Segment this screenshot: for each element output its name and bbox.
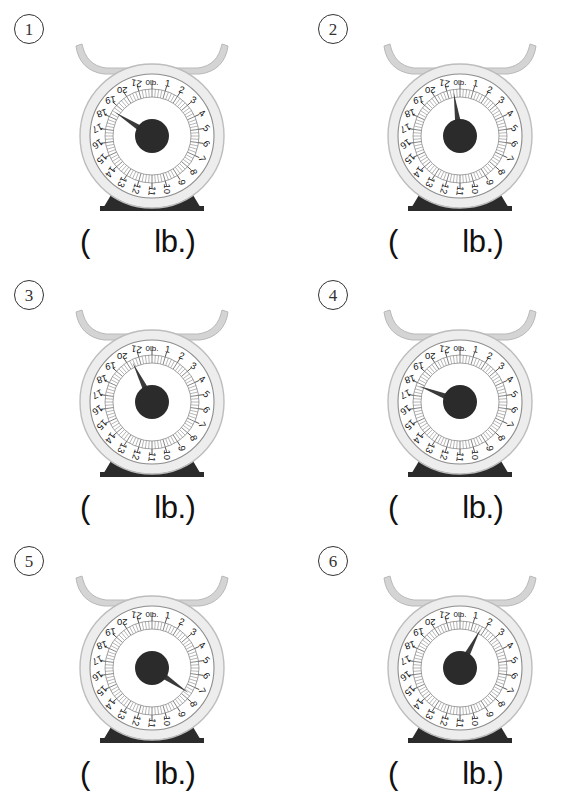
problem-number-4: 4 [318, 280, 348, 310]
dial-zero-label: 0lb. [454, 78, 467, 87]
dial-number-label: 19 [104, 360, 116, 373]
weighing-scale: 0lb.123456789101112131415161718192021 [370, 294, 550, 484]
scale-drawing: 0lb.123456789101112131415161718192021 [62, 294, 242, 484]
answer-line[interactable]: (lb.) [370, 222, 550, 262]
weighing-scale: 0lb.123456789101112131415161718192021 [370, 28, 550, 218]
problem-item: 60lb.123456789101112131415161718192021(l… [292, 532, 584, 798]
problem-number-3: 3 [14, 280, 44, 310]
answer-line[interactable]: (lb.) [370, 754, 550, 794]
dial-zero-label: 0lb. [146, 610, 159, 619]
answer-unit-label: lb.) [154, 756, 195, 792]
dial-number-label: 20 [117, 351, 128, 362]
dial-number-label: 11 [146, 717, 158, 728]
answer-unit-label: lb.) [462, 490, 503, 526]
dial-needle-hub [135, 651, 169, 685]
dial-number-label: 19 [412, 360, 424, 373]
dial-number-label: 19 [412, 94, 424, 107]
problem-item: 50lb.123456789101112131415161718192021(l… [0, 532, 292, 798]
dial-needle-hub [443, 651, 477, 685]
weighing-scale: 0lb.123456789101112131415161718192021 [62, 294, 242, 484]
dial-number-label: 21 [130, 77, 142, 90]
dial-needle-hub [443, 385, 477, 419]
answer-unit-label: lb.) [462, 224, 503, 260]
answer-line[interactable]: (lb.) [62, 754, 242, 794]
dial-number-label: 11 [146, 451, 158, 462]
answer-unit-label: lb.) [154, 224, 195, 260]
answer-open-paren: ( [80, 490, 90, 526]
scale-drawing: 0lb.123456789101112131415161718192021 [370, 560, 550, 750]
dial-number-label: 10 [162, 715, 173, 726]
dial-number-label: 10 [162, 183, 173, 194]
weighing-scale: 0lb.123456789101112131415161718192021 [62, 560, 242, 750]
answer-open-paren: ( [80, 224, 90, 260]
dial-number-label: 20 [425, 617, 436, 628]
problem-number-6: 6 [318, 546, 348, 576]
dial-number-label: 20 [425, 351, 436, 362]
dial-number-label: 11 [454, 451, 466, 462]
dial-needle-hub [443, 119, 477, 153]
problem-item: 30lb.123456789101112131415161718192021(l… [0, 266, 292, 532]
dial-zero-label: 0lb. [146, 78, 159, 87]
dial-number-label: 10 [470, 715, 481, 726]
scale-drawing: 0lb.123456789101112131415161718192021 [370, 294, 550, 484]
dial-number-label: 20 [117, 85, 128, 96]
problem-number-1: 1 [14, 14, 44, 44]
answer-line[interactable]: (lb.) [62, 488, 242, 528]
dial-number-label: 11 [454, 717, 466, 728]
dial-number-label: 10 [470, 449, 481, 460]
answer-unit-label: lb.) [154, 490, 195, 526]
dial-zero-label: 0lb. [146, 344, 159, 353]
dial-number-label: 11 [454, 185, 466, 196]
dial-number-label: 21 [438, 343, 450, 356]
answer-unit-label: lb.) [462, 756, 503, 792]
answer-open-paren: ( [80, 756, 90, 792]
scale-drawing: 0lb.123456789101112131415161718192021 [370, 28, 550, 218]
weighing-scale: 0lb.123456789101112131415161718192021 [62, 28, 242, 218]
dial-number-label: 21 [438, 77, 450, 90]
dial-zero-label: 0lb. [454, 344, 467, 353]
dial-zero-label: 0lb. [454, 610, 467, 619]
answer-line[interactable]: (lb.) [370, 488, 550, 528]
dial-number-label: 21 [130, 609, 142, 622]
answer-open-paren: ( [388, 756, 398, 792]
dial-number-label: 20 [425, 85, 436, 96]
dial-number-label: 10 [470, 183, 481, 194]
dial-number-label: 21 [130, 343, 142, 356]
dial-number-label: 20 [117, 617, 128, 628]
problem-item: 20lb.123456789101112131415161718192021(l… [292, 0, 584, 266]
worksheet-sheet: 10lb.123456789101112131415161718192021(l… [0, 0, 584, 798]
answer-open-paren: ( [388, 224, 398, 260]
dial-needle-hub [135, 385, 169, 419]
dial-number-label: 19 [104, 94, 116, 107]
problem-number-2: 2 [318, 14, 348, 44]
scale-drawing: 0lb.123456789101112131415161718192021 [62, 28, 242, 218]
dial-number-label: 10 [162, 449, 173, 460]
problem-item: 10lb.123456789101112131415161718192021(l… [0, 0, 292, 266]
problem-number-5: 5 [14, 546, 44, 576]
problem-item: 40lb.123456789101112131415161718192021(l… [292, 266, 584, 532]
dial-needle-hub [135, 119, 169, 153]
dial-number-label: 11 [146, 185, 158, 196]
scale-drawing: 0lb.123456789101112131415161718192021 [62, 560, 242, 750]
dial-number-label: 19 [412, 626, 424, 639]
answer-line[interactable]: (lb.) [62, 222, 242, 262]
dial-number-label: 19 [104, 626, 116, 639]
weighing-scale: 0lb.123456789101112131415161718192021 [370, 560, 550, 750]
dial-number-label: 21 [438, 609, 450, 622]
answer-open-paren: ( [388, 490, 398, 526]
